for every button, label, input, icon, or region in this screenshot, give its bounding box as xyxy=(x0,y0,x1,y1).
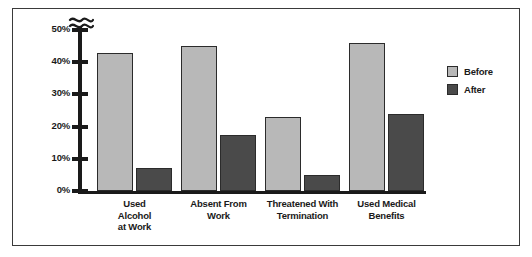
bar-before xyxy=(97,53,133,191)
legend-swatch-icon xyxy=(447,66,458,77)
legend-item-before: Before xyxy=(447,66,493,77)
bar-after xyxy=(220,135,256,191)
chart-legend: BeforeAfter xyxy=(447,66,493,102)
category-label: Used MedicalBenefits xyxy=(332,198,442,221)
legend-label: Before xyxy=(464,66,493,77)
chart-figure: 0%10%20%30%40%50% UsedAlcoholat WorkAbse… xyxy=(0,0,532,257)
bar-before xyxy=(265,117,301,191)
bar-after xyxy=(136,168,172,191)
bar-before xyxy=(349,43,385,191)
bar-after xyxy=(304,175,340,191)
bar-after xyxy=(388,114,424,191)
legend-label: After xyxy=(464,84,485,95)
bar-before xyxy=(181,46,217,191)
plot-area: 0%10%20%30%40%50% UsedAlcoholat WorkAbse… xyxy=(0,0,532,257)
legend-item-after: After xyxy=(447,84,493,95)
legend-swatch-icon xyxy=(447,84,458,95)
